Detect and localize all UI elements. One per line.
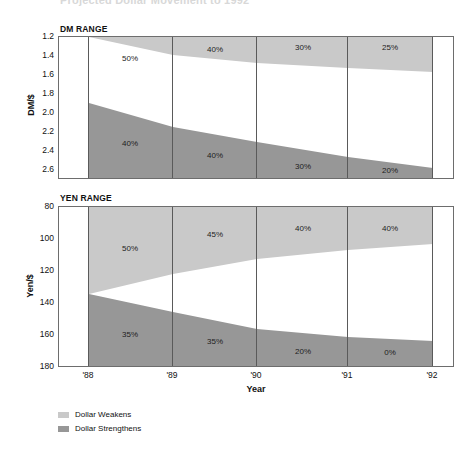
yen-range-panel: YEN RANGE Yen/$ 80 100 120 140 160 180 bbox=[0, 186, 476, 396]
xtick-label-90: '90 bbox=[250, 370, 261, 380]
yen-strengthens-label: 0% bbox=[384, 348, 396, 357]
dm-ytick-label: 2.6 bbox=[26, 164, 54, 174]
yen-ytick-label: 100 bbox=[26, 233, 54, 243]
yen-gridline-90 bbox=[256, 207, 257, 366]
x-axis-label: Year bbox=[246, 384, 265, 394]
dm-weakens-label: 40% bbox=[207, 45, 223, 54]
yen-strengthens-label: 35% bbox=[122, 330, 138, 339]
legend-label-dollar-weakens: Dollar Weakens bbox=[75, 410, 131, 419]
yen-ytick-label: 80 bbox=[26, 201, 54, 211]
dm-weakens-label: 30% bbox=[295, 43, 311, 52]
yen-ytick-label: 120 bbox=[26, 265, 54, 275]
dm-strengthens-label: 30% bbox=[295, 162, 311, 171]
dm-ytick-label: 1.8 bbox=[26, 88, 54, 98]
yen-ytick-label: 160 bbox=[26, 329, 54, 339]
yen-strengthens-band bbox=[89, 294, 433, 366]
yen-weakens-label: 40% bbox=[382, 224, 398, 233]
xtick-label-89: '89 bbox=[166, 370, 177, 380]
xtick-label-91: '91 bbox=[341, 370, 352, 380]
yen-ytick-label: 180 bbox=[26, 361, 54, 371]
legend-item-dollar-weakens: Dollar Weakens bbox=[58, 409, 141, 420]
dm-ytick-label: 2.0 bbox=[26, 107, 54, 117]
xtick-label-92: '92 bbox=[426, 370, 437, 380]
legend-swatch-dollar-weakens bbox=[58, 412, 69, 418]
dm-strengthens-label: 40% bbox=[122, 139, 138, 148]
yen-gridline-88 bbox=[88, 207, 89, 366]
dm-ytick-label: 1.2 bbox=[26, 31, 54, 41]
dm-ytick-label: 2.4 bbox=[26, 145, 54, 155]
dm-ytick-label: 2.2 bbox=[26, 126, 54, 136]
dm-gridline-88 bbox=[88, 37, 89, 178]
dm-strengthens-label: 40% bbox=[207, 151, 223, 160]
legend-item-dollar-strengthens: Dollar Strengthens bbox=[58, 423, 141, 434]
legend-swatch-dollar-strengthens bbox=[58, 426, 69, 432]
xtick-label-88: '88 bbox=[82, 370, 93, 380]
yen-weakens-label: 50% bbox=[122, 244, 138, 253]
dm-strengthens-label: 20% bbox=[382, 166, 398, 175]
yen-range-title: YEN RANGE bbox=[60, 193, 112, 203]
dm-range-plot-area bbox=[58, 36, 454, 179]
yen-ytick-label: 140 bbox=[26, 297, 54, 307]
dm-gridline-89 bbox=[172, 37, 173, 178]
dm-gridline-92 bbox=[432, 37, 433, 178]
yen-weakens-label: 40% bbox=[295, 224, 311, 233]
dm-gridline-91 bbox=[347, 37, 348, 178]
yen-gridline-92 bbox=[432, 207, 433, 366]
legend-label-dollar-strengthens: Dollar Strengthens bbox=[75, 424, 141, 433]
yen-strengthens-label: 35% bbox=[207, 337, 223, 346]
yen-weakens-band bbox=[89, 207, 433, 294]
chart-legend: Dollar Weakens Dollar Strengthens bbox=[58, 409, 141, 437]
yen-weakens-label: 45% bbox=[207, 230, 223, 239]
dm-range-title: DM RANGE bbox=[60, 24, 107, 34]
dm-range-panel: DM RANGE DM/$ 1.2 1.4 1.6 1.8 2.0 2.2 2.… bbox=[0, 0, 476, 195]
dm-weakens-label: 25% bbox=[382, 43, 398, 52]
dm-ytick-label: 1.6 bbox=[26, 69, 54, 79]
yen-gridline-89 bbox=[172, 207, 173, 366]
dm-ytick-label: 1.4 bbox=[26, 50, 54, 60]
yen-strengthens-label: 20% bbox=[295, 347, 311, 356]
chart-figure: Projected Dollar Movement to 1992 DM RAN… bbox=[0, 0, 476, 449]
yen-range-y-axis-label: Yen/$ bbox=[25, 254, 35, 318]
yen-gridline-91 bbox=[347, 207, 348, 366]
dm-gridline-90 bbox=[256, 37, 257, 178]
dm-weakens-label: 50% bbox=[122, 54, 138, 63]
